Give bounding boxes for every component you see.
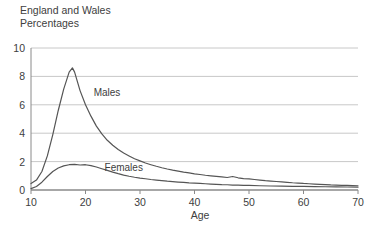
x-tick-label: 60 <box>298 196 310 208</box>
x-tick-label: 30 <box>134 196 146 208</box>
line-chart-plot: 0246810 10203040506070 MalesFemales Age <box>0 0 379 236</box>
chart-title: England and Wales <box>20 4 111 17</box>
chart-subtitle: Percentages <box>20 17 111 30</box>
y-tick-label: 4 <box>19 127 25 139</box>
x-tick-label: 40 <box>189 196 201 208</box>
y-tick-label: 2 <box>19 156 25 168</box>
series-paths-group <box>31 68 358 189</box>
y-tick-labels-group: 0246810 <box>13 42 25 196</box>
x-tick-labels-group: 10203040506070 <box>25 196 364 208</box>
series-annotation-females: Females <box>105 162 143 173</box>
series-annotation-males: Males <box>94 87 121 98</box>
chart-container: England and Wales Percentages 0246810 10… <box>0 0 379 236</box>
y-tick-label: 10 <box>13 42 25 54</box>
x-tick-label: 20 <box>80 196 92 208</box>
y-tick-label: 8 <box>19 70 25 82</box>
x-tick-label: 10 <box>25 196 37 208</box>
series-labels-group: MalesFemales <box>94 87 143 173</box>
series-line-females <box>31 164 358 188</box>
axes-group <box>31 48 358 190</box>
x-axis-title: Age <box>191 209 210 221</box>
y-tick-label: 6 <box>19 99 25 111</box>
chart-title-block: England and Wales Percentages <box>20 4 111 30</box>
y-tick-label: 0 <box>19 184 25 196</box>
x-tick-label: 70 <box>352 196 364 208</box>
gridlines-group <box>31 48 358 162</box>
x-tick-label: 50 <box>243 196 255 208</box>
series-line-males <box>31 68 358 186</box>
